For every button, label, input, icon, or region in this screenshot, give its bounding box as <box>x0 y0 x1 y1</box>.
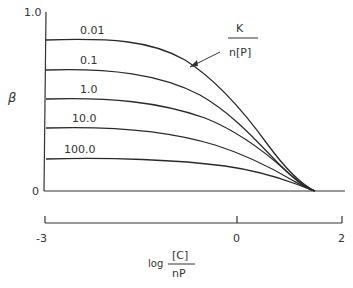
chart: 1.0 0 β 0.01 0.1 1.0 10.0 100.0 K n[P] -… <box>0 0 353 288</box>
x-label-numerator: [C] <box>172 249 188 262</box>
y-tick-bottom: 0 <box>32 185 39 198</box>
x-tick-label-left: -3 <box>36 232 47 245</box>
y-tick-top: 1.0 <box>24 6 42 19</box>
x-tick-label-mid: 0 <box>233 232 240 245</box>
curve-label-0.1: 0.1 <box>80 54 98 67</box>
curve-label-1.0: 1.0 <box>80 83 98 96</box>
x-tick-label-right: 2 <box>338 232 345 245</box>
param-denominator: n[P] <box>229 46 251 59</box>
x-label-denominator: nP <box>172 267 186 280</box>
curve-label-100.0: 100.0 <box>64 143 96 156</box>
y-axis-label: β <box>7 90 16 105</box>
param-numerator: K <box>236 22 244 35</box>
y-axis <box>44 12 46 191</box>
curve-100.0 <box>46 158 315 191</box>
curve-label-10.0: 10.0 <box>72 112 97 125</box>
x-label-log: log <box>148 258 163 269</box>
curve-label-0.01: 0.01 <box>80 24 105 37</box>
